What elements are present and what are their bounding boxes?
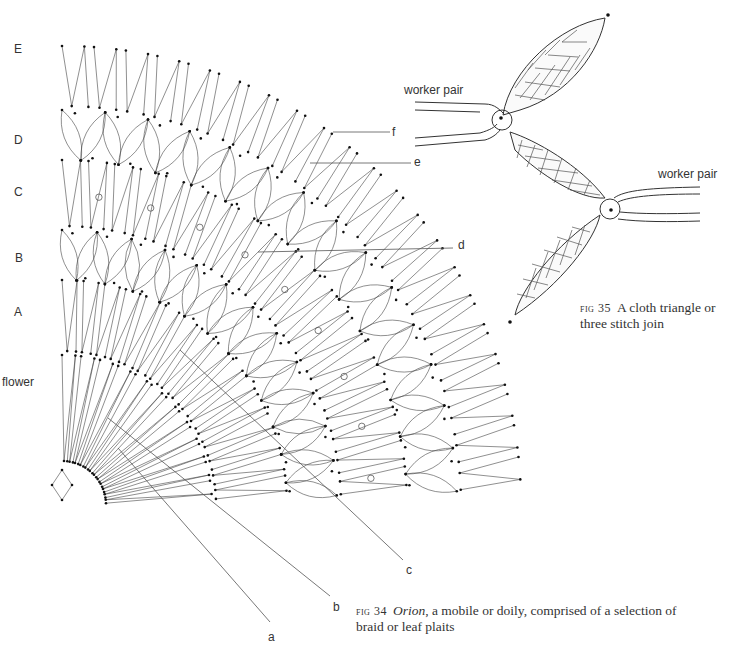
thread	[126, 51, 127, 112]
thread	[96, 288, 119, 355]
pin-hole	[157, 173, 160, 176]
pin-hole	[323, 127, 326, 130]
pin-hole	[126, 110, 129, 113]
picot-hole	[359, 423, 365, 429]
thread	[282, 128, 324, 172]
thread	[282, 116, 306, 172]
pin-hole	[440, 379, 443, 382]
thread	[327, 407, 393, 419]
thread	[125, 296, 147, 364]
pin-hole	[274, 233, 277, 236]
thread	[111, 294, 141, 359]
thread	[255, 251, 296, 303]
pin-hole	[116, 116, 119, 119]
pin-hole	[115, 48, 118, 51]
pin-hole	[260, 399, 263, 402]
thread	[339, 459, 404, 473]
pin-hole	[190, 420, 193, 423]
leaf-plait	[406, 448, 453, 474]
pin-hole	[90, 226, 93, 229]
pin-hole	[91, 157, 94, 160]
thread	[99, 422, 187, 482]
pin-hole	[84, 277, 87, 280]
callout-f: f	[392, 125, 395, 139]
pin-hole	[188, 130, 191, 133]
pin-hole	[76, 279, 79, 282]
pin-hole	[212, 337, 215, 340]
pin-hole	[74, 462, 77, 465]
pin-hole	[68, 225, 71, 228]
pin-hole	[211, 468, 214, 471]
pin-hole	[125, 49, 128, 52]
pin-hole	[118, 361, 121, 364]
figure-34-caption-line2: braid or leaf plaits	[356, 619, 455, 634]
thread	[210, 434, 276, 462]
callout-b: b	[333, 600, 340, 614]
pin-hole	[104, 499, 107, 502]
pin-hole	[517, 456, 520, 459]
pin-hole	[70, 105, 73, 108]
pin-hole	[209, 69, 212, 72]
left-worker-pair-threads	[415, 102, 505, 146]
pin-hole	[167, 392, 170, 395]
pin-hole	[247, 84, 250, 87]
pin-hole	[257, 156, 260, 159]
thread	[425, 324, 484, 339]
thread	[76, 281, 77, 352]
pin-hole	[287, 341, 290, 344]
pin-hole	[106, 162, 109, 165]
pin-hole	[336, 295, 339, 298]
thread	[205, 428, 274, 448]
thread	[62, 355, 64, 461]
pin-hole	[164, 245, 167, 248]
pin-hole	[348, 146, 351, 149]
thread	[311, 341, 366, 379]
pin-hole	[142, 113, 145, 116]
pin-hole	[455, 444, 458, 447]
leader-a	[118, 448, 270, 622]
pin-hole	[206, 132, 209, 135]
thread	[246, 251, 296, 295]
thread	[197, 71, 210, 130]
pin-hole	[218, 72, 221, 75]
pin-hole	[469, 294, 472, 297]
pin-hole	[285, 461, 288, 464]
callout-leader-lines	[108, 132, 453, 622]
pin-hole	[452, 447, 455, 450]
pin-hole	[342, 231, 345, 234]
pin-hole	[132, 166, 135, 169]
pin-hole	[177, 403, 180, 406]
pin-hole	[331, 470, 334, 473]
thread	[105, 288, 120, 358]
pin-hole	[201, 328, 204, 331]
pin-hole	[93, 46, 96, 49]
pin-hole	[364, 340, 367, 343]
worker-pair-label-left: worker pair	[404, 83, 463, 97]
leaf-plait	[391, 395, 445, 411]
pin-hole	[224, 200, 227, 203]
pin-hole	[156, 383, 159, 386]
thread	[91, 283, 99, 354]
thread	[191, 389, 255, 421]
pin-hole	[302, 191, 305, 194]
pin-hole	[497, 362, 500, 365]
thread	[340, 481, 406, 485]
lower-leaf-tip-pin	[508, 320, 512, 324]
pin-hole	[117, 365, 120, 368]
pin-hole	[486, 332, 489, 335]
pin-hole	[89, 352, 92, 355]
pin-hole	[390, 286, 393, 289]
thread	[94, 47, 100, 108]
pin-hole	[335, 220, 338, 223]
callout-e: e	[414, 155, 421, 169]
pin-hole	[325, 204, 328, 207]
pin-hole	[294, 180, 297, 183]
pin-hole	[296, 109, 299, 112]
pin-hole	[254, 302, 257, 305]
leaf-plait	[315, 252, 366, 272]
pin-hole	[99, 483, 102, 486]
thread	[144, 54, 148, 114]
thread	[412, 295, 470, 314]
pin-hole	[346, 310, 349, 313]
pin-hole	[180, 123, 183, 126]
